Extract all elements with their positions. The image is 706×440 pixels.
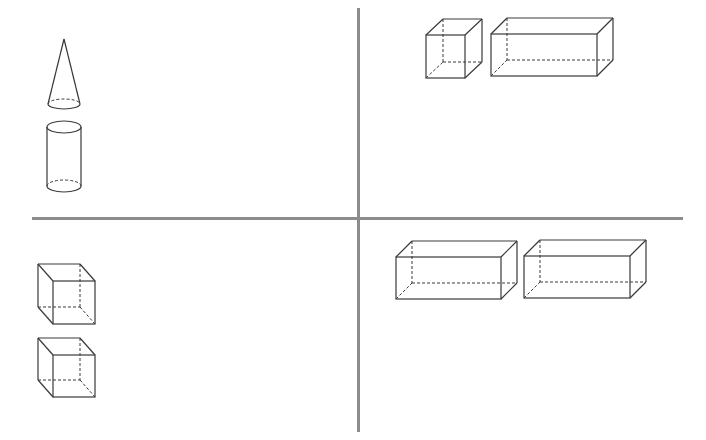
cube-shape-top-right xyxy=(426,19,482,78)
cube-shape-bottom-left-1 xyxy=(38,264,95,324)
prism-shape-bottom-right-1 xyxy=(396,241,517,299)
cone-shape xyxy=(48,39,80,109)
figure-canvas xyxy=(0,0,706,440)
prism-shape-top-right xyxy=(491,18,613,76)
prism-shape-bottom-right-2 xyxy=(524,240,646,298)
cube-shape-bottom-left-2 xyxy=(38,338,95,397)
cylinder-shape xyxy=(47,121,81,192)
shapes-layer xyxy=(0,0,706,440)
